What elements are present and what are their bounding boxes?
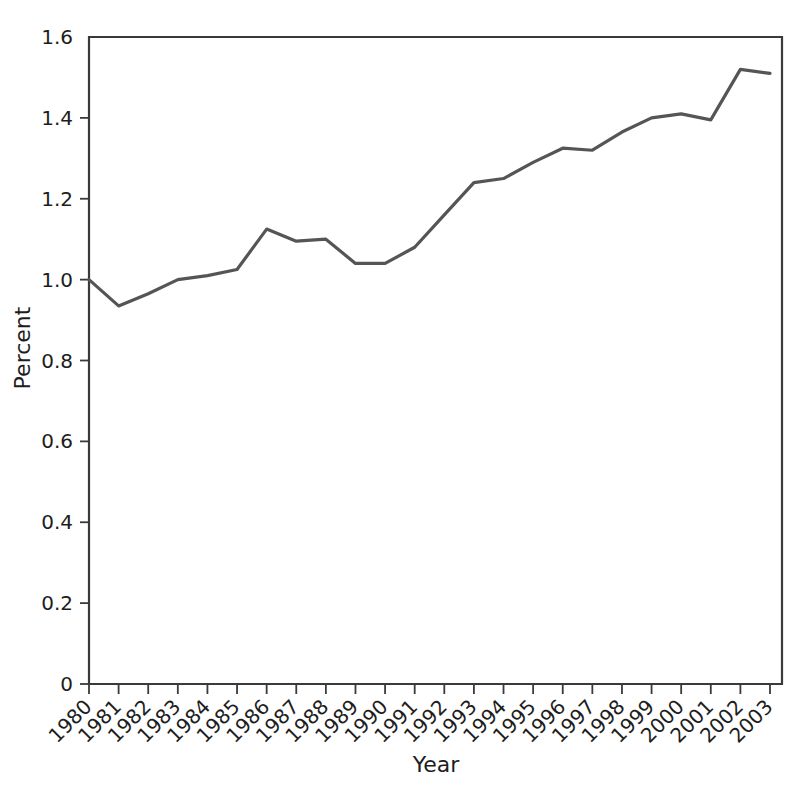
y-tick-label: 1.0 bbox=[41, 268, 73, 292]
chart-page: 00.20.40.60.81.01.21.41.6 19801981198219… bbox=[0, 0, 796, 786]
y-tick-label: 0.4 bbox=[41, 510, 73, 534]
plot-background bbox=[0, 0, 796, 786]
y-axis-title: Percent bbox=[10, 306, 35, 389]
y-tick-label: 0.2 bbox=[41, 591, 73, 615]
y-tick-label: 0 bbox=[60, 672, 73, 696]
line-chart: 00.20.40.60.81.01.21.41.6 19801981198219… bbox=[0, 0, 796, 786]
y-tick-label: 1.2 bbox=[41, 187, 73, 211]
y-tick-label: 1.4 bbox=[41, 106, 73, 130]
y-tick-label: 0.8 bbox=[41, 349, 73, 373]
y-tick-label: 1.6 bbox=[41, 25, 73, 49]
x-axis-title: Year bbox=[412, 752, 461, 777]
y-tick-label: 0.6 bbox=[41, 429, 73, 453]
